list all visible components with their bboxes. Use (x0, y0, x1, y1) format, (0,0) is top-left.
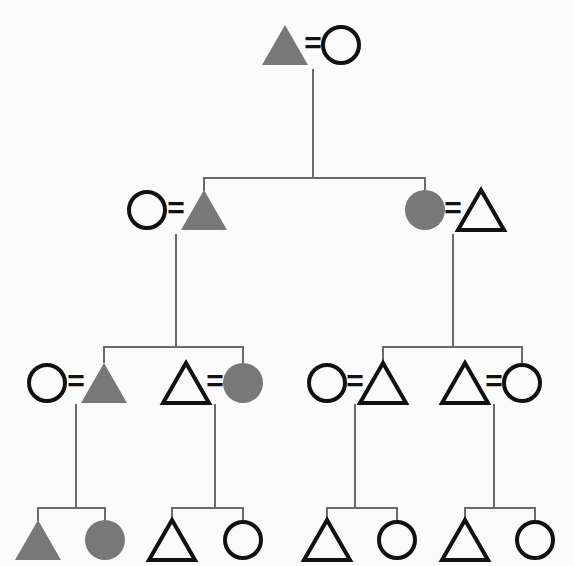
individual-circle-filled (85, 520, 125, 560)
individual-circle-filled (405, 190, 445, 230)
individual-circle-open (504, 365, 540, 401)
individual-circle-open (517, 522, 553, 558)
individual-triangle-open (442, 520, 488, 560)
mating-link: = (67, 364, 85, 397)
individual-triangle-open (149, 520, 195, 560)
sibship-connector (383, 235, 522, 362)
mating-symbol: = (67, 364, 85, 397)
individual-triangle-open (163, 363, 209, 403)
connector-lines-layer (38, 70, 535, 520)
sibship-connector (204, 70, 425, 190)
individual-triangle-open (458, 190, 504, 230)
mating-link: = (206, 364, 224, 397)
pedigree-chart: ======= (0, 0, 574, 566)
mating-symbol: = (167, 191, 185, 224)
mating-symbol: = (346, 364, 364, 397)
individual-shapes-layer (15, 25, 553, 560)
mating-symbol: = (206, 364, 224, 397)
individual-triangle-filled (81, 363, 127, 403)
mating-symbol: = (444, 191, 462, 224)
individual-circle-open (225, 522, 261, 558)
sibship-connector (38, 405, 105, 520)
individual-triangle-filled (262, 25, 308, 65)
individual-circle-open (309, 365, 345, 401)
individual-triangle-open (360, 363, 406, 403)
individual-circle-open (379, 522, 415, 558)
individual-triangle-filled (181, 190, 227, 230)
mating-symbol: = (485, 364, 503, 397)
individual-triangle-open (442, 363, 488, 403)
individual-triangle-open (304, 520, 350, 560)
sibship-connector (172, 405, 243, 520)
individual-triangle-filled (15, 520, 61, 560)
sibship-connector (465, 405, 535, 520)
mating-link: = (167, 191, 185, 224)
sibship-connector (104, 235, 243, 362)
mating-link: = (346, 364, 364, 397)
mating-symbol: = (304, 26, 322, 59)
individual-circle-filled (223, 363, 263, 403)
pedigree-diagram: ======= (0, 0, 574, 566)
individual-circle-open (129, 192, 165, 228)
mating-link: = (304, 26, 322, 59)
mating-link: = (485, 364, 503, 397)
sibship-connector (327, 405, 397, 520)
individual-circle-open (323, 27, 359, 63)
individual-circle-open (29, 365, 65, 401)
mating-link: = (444, 191, 462, 224)
